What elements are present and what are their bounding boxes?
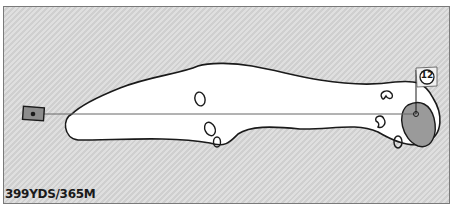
tee-box-icon [23, 106, 45, 120]
yardage-label: 399YDS/365M [5, 187, 95, 201]
hole-map [0, 0, 453, 206]
fairway [65, 63, 440, 144]
hole-number: 12 [419, 70, 435, 80]
